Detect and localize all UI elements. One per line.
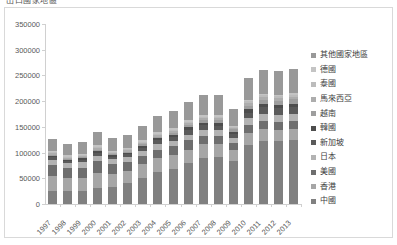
bar-segment[interactable] <box>244 145 253 204</box>
bar-segment[interactable] <box>199 95 208 115</box>
bar-column[interactable] <box>259 70 268 204</box>
bar-segment[interactable] <box>48 139 57 150</box>
bar-segment[interactable] <box>108 187 117 204</box>
bar-segment[interactable] <box>63 144 72 155</box>
bar-segment[interactable] <box>169 169 178 204</box>
bar-segment[interactable] <box>259 114 268 121</box>
bar-segment[interactable] <box>274 122 283 130</box>
bar-segment[interactable] <box>184 102 193 121</box>
bar-segment[interactable] <box>93 132 102 145</box>
bar-segment[interactable] <box>184 163 193 204</box>
bar-segment[interactable] <box>274 71 283 95</box>
bar-segment[interactable] <box>214 136 223 144</box>
bar-segment[interactable] <box>229 150 238 161</box>
bar-column[interactable] <box>184 102 193 204</box>
bar-segment[interactable] <box>138 126 147 140</box>
bar-segment[interactable] <box>63 178 72 191</box>
bar-segment[interactable] <box>123 135 132 148</box>
bar-segment[interactable] <box>289 121 298 129</box>
legend-item[interactable]: 美國 <box>311 165 393 180</box>
bar-segment[interactable] <box>123 183 132 204</box>
legend-item[interactable]: 泰國 <box>311 77 393 92</box>
bar-segment[interactable] <box>289 129 298 140</box>
bar-segment[interactable] <box>229 161 238 204</box>
bar-segment[interactable] <box>244 133 253 145</box>
legend-item[interactable]: 德國 <box>311 63 393 78</box>
bar-segment[interactable] <box>108 164 117 173</box>
bar-segment[interactable] <box>169 111 178 128</box>
bar-segment[interactable] <box>289 107 298 114</box>
bar-segment[interactable] <box>48 165 57 176</box>
bar-segment[interactable] <box>123 171 132 184</box>
bar-segment[interactable] <box>138 178 147 204</box>
bar-segment[interactable] <box>93 161 102 172</box>
bar-column[interactable] <box>244 78 253 204</box>
bar-segment[interactable] <box>214 95 223 115</box>
bar-segment[interactable] <box>244 78 253 100</box>
bar-column[interactable] <box>289 69 298 204</box>
bar-column[interactable] <box>123 135 132 204</box>
bar-column[interactable] <box>229 109 238 204</box>
bar-segment[interactable] <box>153 172 162 204</box>
bar-segment[interactable] <box>93 188 102 204</box>
bar-segment[interactable] <box>78 191 87 204</box>
bar-segment[interactable] <box>78 142 87 153</box>
bar-segment[interactable] <box>63 168 72 178</box>
bar-segment[interactable] <box>78 168 87 178</box>
bar-column[interactable] <box>108 138 117 204</box>
bar-segment[interactable] <box>123 162 132 171</box>
bar-segment[interactable] <box>244 118 253 125</box>
bar-segment[interactable] <box>259 129 268 141</box>
bar-segment[interactable] <box>229 109 238 125</box>
bar-segment[interactable] <box>78 178 87 191</box>
bar-segment[interactable] <box>153 150 162 159</box>
bar-column[interactable] <box>274 71 283 204</box>
bar-segment[interactable] <box>169 146 178 155</box>
bar-segment[interactable] <box>153 116 162 132</box>
bar-column[interactable] <box>93 132 102 204</box>
bar-segment[interactable] <box>48 176 57 190</box>
bar-segment[interactable] <box>289 114 298 121</box>
bar-segment[interactable] <box>153 158 162 172</box>
bar-column[interactable] <box>214 95 223 204</box>
bar-segment[interactable] <box>289 69 298 93</box>
bar-segment[interactable] <box>259 141 268 204</box>
bar-column[interactable] <box>48 139 57 204</box>
bar-segment[interactable] <box>244 125 253 133</box>
bar-segment[interactable] <box>289 140 298 204</box>
bar-segment[interactable] <box>274 130 283 141</box>
bar-segment[interactable] <box>63 191 72 204</box>
bar-segment[interactable] <box>108 138 117 150</box>
bar-segment[interactable] <box>169 155 178 169</box>
bar-segment[interactable] <box>184 150 193 164</box>
bar-segment[interactable] <box>93 173 102 188</box>
bar-segment[interactable] <box>259 121 268 130</box>
bar-segment[interactable] <box>108 174 117 187</box>
bar-segment[interactable] <box>274 115 283 122</box>
bar-segment[interactable] <box>138 164 147 177</box>
bar-column[interactable] <box>138 126 147 204</box>
bar-segment[interactable] <box>184 140 193 149</box>
bar-segment[interactable] <box>214 144 223 157</box>
bar-column[interactable] <box>153 116 162 204</box>
legend-item[interactable]: 日本 <box>311 150 393 165</box>
legend-item[interactable]: 新加坡 <box>311 136 393 151</box>
bar-segment[interactable] <box>229 143 238 150</box>
bar-segment[interactable] <box>199 144 208 158</box>
bar-segment[interactable] <box>199 136 208 145</box>
legend-item[interactable]: 馬來西亞 <box>311 92 393 107</box>
bar-segment[interactable] <box>199 158 208 204</box>
bar-column[interactable] <box>199 95 208 204</box>
bar-column[interactable] <box>169 111 178 204</box>
legend-item[interactable]: 越南 <box>311 106 393 121</box>
bar-segment[interactable] <box>214 157 223 204</box>
legend-item[interactable]: 其他國家地區 <box>311 48 393 63</box>
legend-item[interactable]: 香港 <box>311 179 393 194</box>
bar-column[interactable] <box>78 142 87 204</box>
bar-segment[interactable] <box>138 156 147 164</box>
legend-item[interactable]: 韓國 <box>311 121 393 136</box>
legend-item[interactable]: 中國 <box>311 194 393 209</box>
bar-segment[interactable] <box>259 70 268 93</box>
bar-segment[interactable] <box>48 191 57 204</box>
bar-segment[interactable] <box>274 141 283 204</box>
